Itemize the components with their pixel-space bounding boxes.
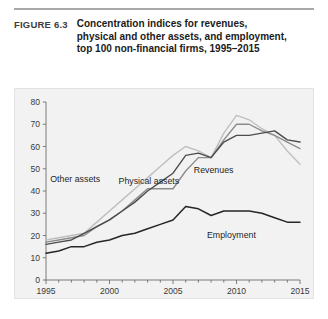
series-label-physical-assets: Physical assets [119,176,180,186]
figure-number: FIGURE 6.3 [14,18,68,30]
y-tick-label: 10 [30,253,40,263]
series-label-employment: Employment [207,230,256,240]
top-rule-divider [14,8,314,10]
y-tick-label: 0 [35,275,40,285]
series-line-employment [46,207,300,254]
figure-page: FIGURE 6.3 Concentration indices for rev… [0,0,328,319]
series-label-other-assets: Other assets [50,174,100,184]
y-tick-label: 50 [30,164,40,174]
y-tick-label: 20 [30,231,40,241]
figure-caption: FIGURE 6.3 Concentration indices for rev… [14,18,318,56]
plot-area: 0102030405060708019952000200520102015Rev… [15,89,315,300]
x-tick-label: 2005 [163,286,182,296]
y-tick-label: 70 [30,119,40,129]
y-tick-label: 80 [30,97,40,107]
x-tick-label: 2000 [100,286,119,296]
page-title: Concentration indices for revenues, phys… [77,18,289,56]
x-tick-label: 1995 [36,286,55,296]
y-tick-label: 40 [30,186,40,196]
chart-panel: 0102030405060708019952000200520102015Rev… [14,88,314,299]
series-label-revenues: Revenues [194,165,234,175]
y-tick-label: 60 [30,142,40,152]
line-chart: 0102030405060708019952000200520102015Rev… [15,89,315,300]
x-tick-label: 2010 [227,286,246,296]
y-tick-label: 30 [30,208,40,218]
x-tick-label: 2015 [290,286,309,296]
